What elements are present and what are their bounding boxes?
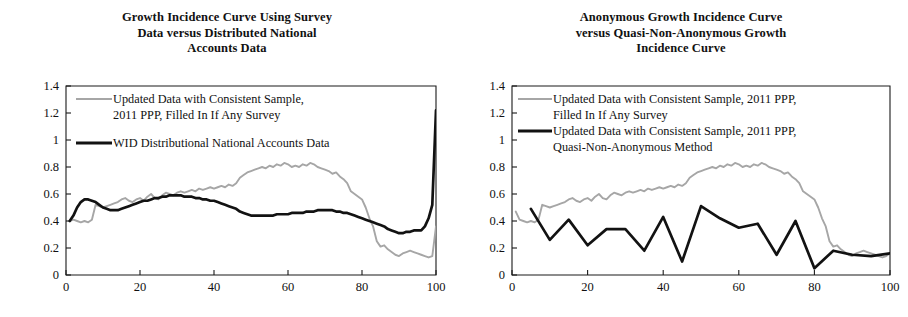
x-axis-tick-label-0: 0	[63, 280, 69, 294]
series-clip-group	[516, 163, 890, 268]
legend-label-0-line-1: Filled In If Any Survey	[553, 108, 669, 122]
y-axis-tick-label-2: 0.4	[43, 214, 59, 228]
series-clip-group	[70, 110, 436, 257]
y-axis-tick-label-7: 1.4	[43, 79, 59, 93]
x-axis-tick-label-4: 80	[356, 280, 369, 294]
y-axis-tick-label-0: 0	[499, 268, 505, 282]
series-line-1	[531, 206, 890, 268]
right-chart-axes: 00.20.40.60.811.21.4020406080100	[489, 79, 899, 294]
x-axis-tick-label-5: 100	[427, 280, 446, 294]
left-chart-plot: 00.20.40.60.811.21.4020406080100 Updated…	[0, 0, 454, 317]
y-axis-tick-label-5: 1	[499, 133, 505, 147]
right-chart-plot: 00.20.40.60.811.21.4020406080100 Updated…	[454, 0, 908, 317]
x-axis-tick-label-5: 100	[881, 280, 900, 294]
figure-two-panel-charts: Growth Incidence Curve Using Survey Data…	[0, 0, 908, 317]
x-axis-tick-label-3: 60	[282, 280, 295, 294]
chart-panel-left: Growth Incidence Curve Using Survey Data…	[0, 0, 454, 317]
y-axis-tick-label-2: 0.4	[489, 214, 505, 228]
x-axis-tick-label-1: 20	[581, 280, 594, 294]
x-axis-tick-label-1: 20	[134, 280, 147, 294]
chart-panel-right: Anonymous Growth Incidence Curve versus …	[454, 0, 908, 317]
y-axis-tick-label-3: 0.6	[43, 187, 59, 201]
legend-label-1-line-0: WID Distributional National Accounts Dat…	[113, 136, 330, 150]
y-axis-tick-label-7: 1.4	[489, 79, 505, 93]
y-axis-tick-label-4: 0.8	[43, 160, 59, 174]
x-axis-tick-label-3: 60	[733, 280, 746, 294]
legend-label-0-line-0: Updated Data with Consistent Sample, 201…	[553, 92, 796, 106]
left-chart-legend: Updated Data with Consistent Sample,2011…	[76, 92, 330, 150]
left-chart-series	[70, 110, 436, 257]
x-axis-tick-label-4: 80	[808, 280, 821, 294]
series-line-0	[516, 163, 890, 258]
y-axis-tick-label-6: 1.2	[43, 106, 59, 120]
series-line-1	[70, 110, 436, 233]
y-axis-tick-label-5: 1	[53, 133, 59, 147]
right-chart-series	[516, 163, 890, 268]
legend-label-1-line-1: Quasi-Non-Anonymous Method	[553, 140, 713, 154]
y-axis-tick-label-0: 0	[53, 268, 59, 282]
x-axis-tick-label-0: 0	[509, 280, 515, 294]
legend-label-1-line-0: Updated Data with Consistent Sample, 201…	[553, 124, 796, 138]
x-axis-tick-label-2: 40	[208, 280, 221, 294]
y-axis-tick-label-4: 0.8	[489, 160, 505, 174]
legend-label-0-line-1: 2011 PPP, Filled In If Any Survey	[113, 108, 281, 122]
right-chart-svg: 00.20.40.60.811.21.4020406080100 Updated…	[454, 0, 908, 317]
y-axis-tick-label-6: 1.2	[489, 106, 505, 120]
left-chart-svg: 00.20.40.60.811.21.4020406080100 Updated…	[0, 0, 454, 317]
y-axis-tick-label-3: 0.6	[489, 187, 505, 201]
y-axis-tick-label-1: 0.2	[489, 241, 505, 255]
series-line-0	[70, 163, 436, 258]
y-axis-tick-label-1: 0.2	[43, 241, 59, 255]
x-axis-tick-label-2: 40	[657, 280, 670, 294]
right-chart-legend: Updated Data with Consistent Sample, 201…	[518, 92, 796, 154]
legend-label-0-line-0: Updated Data with Consistent Sample,	[113, 92, 304, 106]
